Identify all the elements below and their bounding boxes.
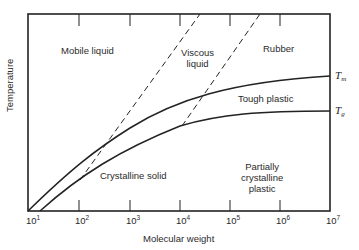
tg-label: Tg — [335, 104, 345, 118]
top-ticks — [79, 14, 280, 26]
x-tick-label: 101 — [26, 214, 40, 226]
region-tough-plastic: Tough plastic — [238, 93, 293, 104]
dashed-boundary-1 — [80, 14, 200, 180]
x-tick-label: 107 — [326, 214, 340, 226]
x-tick-label: 102 — [75, 214, 89, 226]
region-partially-crystalline-plastic: Partially crystalline plastic — [241, 161, 283, 194]
x-axis-label: Molecular weight — [143, 233, 214, 244]
y-axis-label: Temperature — [4, 59, 15, 112]
diagram-canvas — [0, 0, 359, 250]
viscous-line-1: Viscous — [181, 47, 214, 58]
viscous-line-2: liquid — [181, 58, 214, 69]
bottom-ticks — [79, 200, 280, 211]
x-tick-label: 105 — [226, 214, 240, 226]
region-viscous-liquid: Viscous liquid — [181, 47, 214, 69]
x-tick-label: 104 — [176, 214, 190, 226]
partially-line-2: crystalline — [241, 172, 283, 183]
region-crystalline-solid: Crystalline solid — [100, 170, 167, 181]
region-mobile-liquid: Mobile liquid — [61, 45, 114, 56]
region-rubber: Rubber — [263, 43, 294, 54]
partially-line-3: plastic — [241, 183, 283, 194]
partially-line-1: Partially — [241, 161, 283, 172]
dashed-boundary-2 — [182, 14, 260, 126]
tm-label: Tm — [335, 69, 346, 83]
x-tick-label: 103 — [126, 214, 140, 226]
x-tick-label: 106 — [276, 214, 290, 226]
